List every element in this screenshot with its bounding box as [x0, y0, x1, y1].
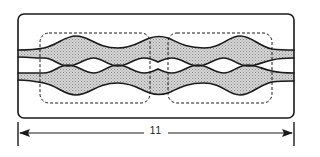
dimension-label: 11	[146, 125, 166, 137]
